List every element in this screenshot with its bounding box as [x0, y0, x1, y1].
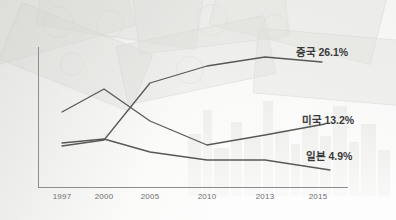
- x-tick-2015: 2015: [309, 192, 328, 201]
- usa-end-label: 미국 13.2%: [302, 112, 354, 127]
- chart-screenshot: 199720002005201020132015 중국 26.1%미국 13.2…: [0, 0, 396, 220]
- series-line-중국: [62, 57, 322, 146]
- series-line-일본: [62, 139, 330, 170]
- japan-end-label: 일본 4.9%: [306, 148, 352, 163]
- x-tick-2005: 2005: [141, 192, 160, 201]
- x-tick-2013: 2013: [256, 192, 275, 201]
- x-tick-1997: 1997: [53, 192, 72, 201]
- plot-area: 199720002005201020132015 중국 26.1%미국 13.2…: [0, 0, 396, 220]
- china-end-label: 중국 26.1%: [296, 44, 348, 59]
- x-tick-2010: 2010: [198, 192, 217, 201]
- series-line-미국: [62, 89, 325, 145]
- x-tick-2000: 2000: [95, 192, 114, 201]
- series-lines: [0, 0, 396, 220]
